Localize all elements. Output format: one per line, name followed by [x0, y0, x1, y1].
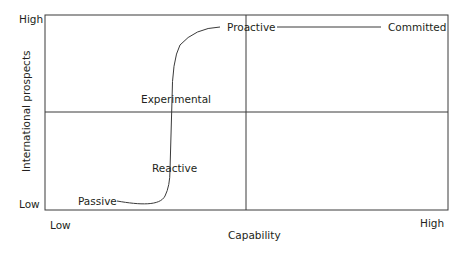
- x-axis-title: Capability: [228, 230, 281, 241]
- x-axis-low-label: Low: [50, 220, 71, 231]
- y-axis-title: International prospects: [20, 52, 32, 172]
- internationalization-path: [117, 27, 220, 204]
- stage-reactive: Reactive: [152, 163, 197, 174]
- stage-passive: Passive: [78, 196, 117, 207]
- matrix-diagram: [0, 0, 462, 254]
- stage-proactive: Proactive: [227, 22, 276, 33]
- stage-experimental: Experimental: [141, 94, 211, 105]
- y-axis-low-label: Low: [19, 199, 40, 210]
- y-axis-high-label: High: [19, 14, 43, 25]
- stage-committed: Committed: [388, 22, 447, 33]
- x-axis-high-label: High: [420, 218, 444, 229]
